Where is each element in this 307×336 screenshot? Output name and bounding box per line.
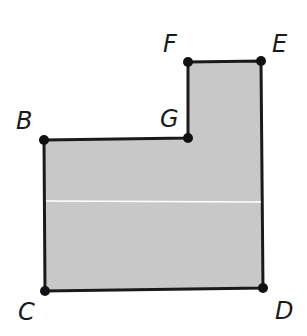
- label-f: F: [163, 30, 178, 58]
- l-shaped-polygon-diagram: F E B G C D: [0, 0, 307, 336]
- label-b: B: [16, 107, 32, 135]
- vertex-c-point: [40, 286, 50, 296]
- label-d: D: [275, 297, 293, 325]
- polygon-bgfedc: [44, 61, 263, 291]
- label-g: G: [160, 105, 179, 133]
- label-c: C: [18, 298, 35, 326]
- vertex-d-point: [258, 283, 268, 293]
- divider-line: [46, 201, 261, 202]
- vertex-g-point: [183, 133, 193, 143]
- vertex-e-point: [256, 56, 266, 66]
- vertex-f-point: [183, 57, 193, 67]
- label-e: E: [272, 30, 288, 58]
- vertex-b-point: [39, 135, 49, 145]
